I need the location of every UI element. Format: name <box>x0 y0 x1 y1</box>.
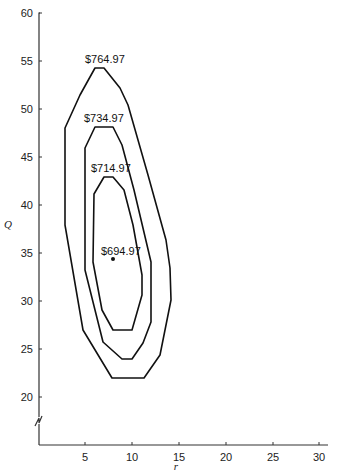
y-tick-label: 60 <box>21 7 33 19</box>
contour-labels: $764.97$734.97$714.97$694.97 <box>84 53 141 257</box>
y-tick-label: 50 <box>21 103 33 115</box>
x-tick-label: 25 <box>267 451 279 463</box>
x-tick-label: 30 <box>313 451 325 463</box>
y-axis-line <box>39 13 40 417</box>
y-axis-title: Q <box>4 218 12 230</box>
y-tick-label: 20 <box>21 391 33 403</box>
y-tick-label: 25 <box>21 343 33 355</box>
contour-label: $694.97 <box>101 245 141 257</box>
y-tick-label: 55 <box>21 55 33 67</box>
x-tick-label: 5 <box>82 451 88 463</box>
contour-label: $764.97 <box>85 53 125 65</box>
x-tick-label: 20 <box>220 451 232 463</box>
contour-label: $734.97 <box>84 112 124 124</box>
contour-label: $714.97 <box>91 162 131 174</box>
y-tick-label: 30 <box>21 295 33 307</box>
minimum-point <box>111 257 115 261</box>
x-tick-label: 10 <box>126 451 138 463</box>
contour-chart: 51015202530202530354045505560rQ $764.97$… <box>0 0 340 475</box>
x-axis-title: r <box>174 460 179 472</box>
y-tick-label: 35 <box>21 247 33 259</box>
y-tick-label: 40 <box>21 199 33 211</box>
y-tick-label: 45 <box>21 151 33 163</box>
